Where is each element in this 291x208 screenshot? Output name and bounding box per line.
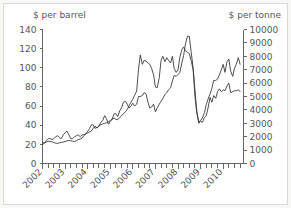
x-axis: 200220032004200520062007200820092010	[21, 164, 244, 191]
series-copper-price-dollars-per-tonne	[43, 47, 241, 143]
x-axis-tick-label: 2004	[66, 167, 89, 190]
left-axis-tick-label: 40	[25, 120, 37, 130]
x-axis-tick-label: 2002	[21, 167, 44, 190]
right-axis-tick-label: 10000	[250, 25, 279, 35]
x-axis-tick-label: 2003	[43, 167, 66, 190]
left-axis-tick-label: 60	[25, 101, 37, 111]
right-axis-tick-label: 5000	[250, 92, 273, 102]
left-axis-tick-label: 100	[19, 63, 36, 73]
left-axis: 020406080100120140	[19, 25, 42, 169]
right-axis-tick-label: 6000	[250, 78, 273, 88]
x-axis-tick-label: 2009	[179, 167, 202, 190]
left-axis-tick-label: 140	[19, 25, 36, 35]
x-axis-tick-label: 2008	[156, 167, 179, 190]
chart-plot-area: 020406080100120140 010002000300040005000…	[0, 0, 291, 208]
x-axis-tick-label: 2010	[201, 167, 224, 190]
series-crude-oil-price-dollars-per-barrel	[43, 36, 241, 144]
right-axis: 0100020003000400050006000700080009000100…	[244, 25, 279, 169]
right-axis-tick-label: 1000	[250, 145, 273, 155]
right-axis-tick-label: 3000	[250, 119, 273, 129]
left-axis-tick-label: 120	[19, 44, 36, 54]
right-axis-tick-label: 4000	[250, 105, 273, 115]
right-axis-tick-label: 7000	[250, 65, 273, 75]
data-series-group	[43, 36, 241, 144]
left-axis-tick-label: 20	[25, 140, 37, 150]
right-axis-tick-label: 8000	[250, 52, 273, 62]
chart-figure: $ per barrel $ per tonne 020406080100120…	[0, 0, 291, 208]
left-axis-tick-label: 80	[25, 82, 37, 92]
right-axis-tick-label: 2000	[250, 132, 273, 142]
right-axis-tick-label: 9000	[250, 38, 273, 48]
x-axis-tick-label: 2006	[111, 167, 134, 190]
x-axis-tick-label: 2007	[134, 167, 157, 190]
x-axis-tick-label: 2005	[88, 167, 111, 190]
right-axis-tick-label: 0	[250, 159, 256, 169]
